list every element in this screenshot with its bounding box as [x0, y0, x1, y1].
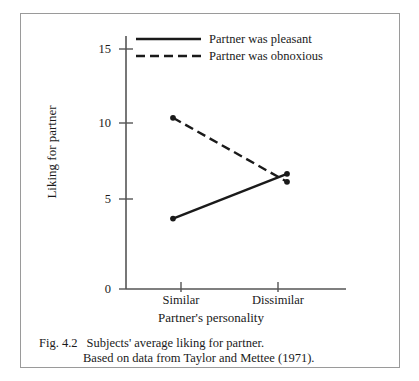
x-tick-label-dissimilar: Dissimilar — [233, 293, 323, 308]
y-tick-label-5: 5 — [83, 192, 111, 207]
series-pleasant-point-similar — [170, 216, 176, 222]
y-tick-label-10: 10 — [83, 116, 111, 131]
y-tick-label-0: 0 — [83, 282, 111, 297]
series-obnoxious-point-dissimilar — [284, 179, 290, 185]
x-tick-label-similar: Similar — [136, 293, 226, 308]
series-obnoxious-line — [173, 118, 287, 182]
y-axis-title: Liking for partner — [44, 87, 60, 217]
caption-text-1: Subjects' average liking for partner. — [87, 336, 265, 350]
figure-caption: Fig. 4.2Subjects' average liking for par… — [21, 336, 401, 366]
caption-line-2: Based on data from Taylor and Mettee (19… — [21, 351, 401, 366]
x-axis-title: Partner's personality — [61, 310, 361, 326]
caption-line-1: Fig. 4.2Subjects' average liking for par… — [21, 336, 401, 351]
legend-label-obnoxious: Partner was obnoxious — [209, 49, 323, 64]
legend-label-pleasant: Partner was pleasant — [209, 32, 312, 47]
caption-figure-number: Fig. 4.2 — [39, 336, 87, 350]
series-pleasant-line — [173, 174, 287, 219]
y-tick-label-15: 15 — [83, 42, 111, 57]
chart-plot-area: 0 5 10 15 Similar Dissimilar Liking for … — [21, 14, 401, 314]
figure-page: 0 5 10 15 Similar Dissimilar Liking for … — [20, 13, 400, 368]
series-obnoxious-point-similar — [170, 115, 176, 121]
series-pleasant-point-dissimilar — [284, 171, 290, 177]
